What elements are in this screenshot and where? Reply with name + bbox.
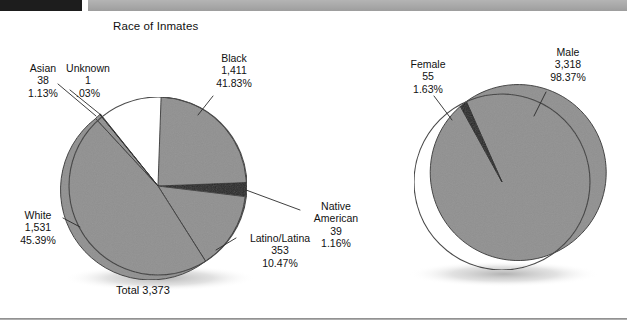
callout-unknown: Unknown 1 .03% bbox=[55, 62, 121, 99]
page-bottom-rule bbox=[0, 318, 627, 320]
callout-native-name2: American bbox=[302, 212, 370, 224]
callout-black-name: Black bbox=[205, 52, 263, 64]
callout-unknown-count: 1 bbox=[55, 74, 121, 86]
callout-male-count: 3,318 bbox=[537, 58, 599, 70]
callout-latino-latina: Latino/Latina 353 10.47% bbox=[232, 232, 328, 269]
figure-root: Race of Inmates Total 3,373 Gender of In… bbox=[0, 0, 627, 330]
chart-title-race: Race of Inmates bbox=[113, 20, 198, 32]
chart-total-race: Total 3,373 bbox=[116, 284, 170, 296]
callout-unknown-name: Unknown bbox=[55, 62, 121, 74]
callout-female-percent: 1.63% bbox=[399, 83, 457, 95]
callout-black: Black 1,411 41.83% bbox=[205, 52, 263, 89]
callout-female-name: Female bbox=[399, 58, 457, 70]
callout-white-percent: 45.39% bbox=[8, 234, 68, 246]
callout-unknown-percent: .03% bbox=[55, 87, 121, 99]
callout-female: Female 55 1.63% bbox=[399, 58, 457, 95]
callout-native-name: Native bbox=[302, 200, 370, 212]
callout-male: Male 3,318 98.37% bbox=[537, 46, 599, 83]
callout-black-percent: 41.83% bbox=[205, 77, 263, 89]
callout-white-name: White bbox=[8, 209, 68, 221]
callout-latino-percent: 10.47% bbox=[232, 257, 328, 269]
callout-latino-name: Latino/Latina bbox=[232, 232, 328, 244]
callout-white: White 1,531 45.39% bbox=[8, 209, 68, 246]
callout-black-count: 1,411 bbox=[205, 64, 263, 76]
callout-male-name: Male bbox=[537, 46, 599, 58]
callout-female-count: 55 bbox=[399, 70, 457, 82]
chart-panel-race: Race of Inmates Total 3,373 bbox=[0, 0, 360, 330]
callout-male-percent: 98.37% bbox=[537, 71, 599, 83]
callout-white-count: 1,531 bbox=[8, 221, 68, 233]
callout-latino-count: 353 bbox=[232, 244, 328, 256]
